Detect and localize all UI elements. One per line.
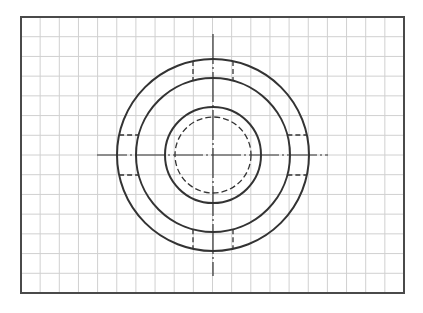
- technical-drawing: [0, 0, 423, 313]
